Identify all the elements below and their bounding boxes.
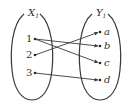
- arrow-2-to-a: [35, 33, 98, 56]
- right-element-c: c: [104, 57, 110, 68]
- right-dot-c: [99, 62, 102, 65]
- mapping-arrows: [35, 33, 98, 81]
- left-element-1: 1: [26, 33, 32, 44]
- right-element-d: d: [104, 74, 110, 85]
- right-set: Y1 a b c d: [79, 7, 120, 100]
- right-set-label: Y1: [96, 7, 106, 19]
- right-dot-a: [99, 31, 102, 34]
- arrow-3-to-d: [35, 73, 98, 80]
- right-set-ellipse: [79, 14, 120, 100]
- right-element-a: a: [104, 26, 110, 37]
- left-set-label: X1: [27, 7, 39, 19]
- right-dot-d: [99, 79, 102, 82]
- left-element-2: 2: [26, 49, 32, 60]
- right-element-b: b: [104, 40, 110, 51]
- mapping-diagram: X1 1 2 3 Y1 a b c d: [0, 0, 134, 105]
- left-element-3: 3: [26, 67, 32, 78]
- right-dot-b: [99, 45, 102, 48]
- left-set: X1 1 2 3: [11, 7, 52, 100]
